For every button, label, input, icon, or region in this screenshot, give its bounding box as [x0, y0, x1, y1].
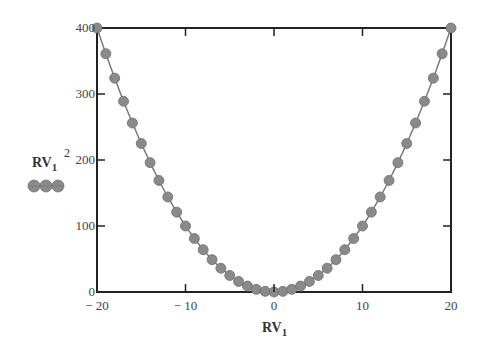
chart: − 20− 10010200100200300400 RV1 RV1 2	[0, 0, 481, 360]
y-tick-label: 200	[76, 152, 96, 167]
data-point-marker	[163, 192, 173, 202]
data-point-marker	[278, 286, 288, 296]
data-point-marker	[154, 175, 164, 185]
y-tick-label: 400	[76, 20, 96, 35]
data-point-marker	[331, 255, 341, 265]
x-tick-label: 20	[445, 298, 458, 313]
data-point-marker	[181, 221, 191, 231]
data-point-marker	[340, 245, 350, 255]
data-point-marker	[393, 158, 403, 168]
data-point-marker	[349, 234, 359, 244]
data-point-marker	[101, 49, 111, 59]
data-point-marker	[375, 192, 385, 202]
data-point-marker	[207, 255, 217, 265]
y-tick-label: 100	[76, 218, 96, 233]
data-point-marker	[216, 263, 226, 273]
data-point-marker	[411, 118, 421, 128]
data-point-marker	[234, 276, 244, 286]
data-point-marker	[402, 139, 412, 149]
x-tick-label: 0	[271, 298, 278, 313]
svg-text:RV1: RV1	[32, 155, 57, 173]
x-axis-title-main: RV	[262, 320, 282, 335]
data-point-marker	[437, 49, 447, 59]
data-point-marker	[225, 271, 235, 281]
y-axis-title-sub: 1	[52, 161, 58, 173]
y-tick-label: 300	[76, 86, 96, 101]
data-point-marker	[198, 245, 208, 255]
data-point-marker	[384, 175, 394, 185]
data-point-marker	[304, 276, 314, 286]
legend-marker-icon	[28, 180, 64, 192]
data-point-marker	[366, 207, 376, 217]
y-axis-title-sup: 2	[64, 146, 70, 160]
y-axis-title-main: RV	[32, 155, 52, 170]
x-tick-label: 10	[356, 298, 369, 313]
data-point-marker	[419, 96, 429, 106]
data-point-marker	[358, 221, 368, 231]
y-axis-title: RV1 2	[32, 146, 70, 173]
data-point-marker	[446, 23, 456, 33]
data-point-marker	[251, 284, 261, 294]
x-axis-title-sub: 1	[282, 326, 288, 338]
data-point-marker	[189, 234, 199, 244]
data-point-marker	[172, 207, 182, 217]
data-point-marker	[322, 263, 332, 273]
data-point-marker	[119, 96, 129, 106]
data-point-marker	[110, 73, 120, 83]
series-curve	[92, 23, 456, 297]
data-point-marker	[136, 139, 146, 149]
data-point-marker	[313, 271, 323, 281]
x-axis-title: RV1	[262, 320, 287, 338]
y-tick-label: 0	[89, 284, 96, 299]
data-point-marker	[428, 73, 438, 83]
data-point-marker	[296, 281, 306, 291]
x-tick-label: − 20	[85, 298, 109, 313]
x-tick-label: − 10	[174, 298, 198, 313]
data-point-marker	[145, 158, 155, 168]
svg-text:RV1: RV1	[262, 320, 287, 338]
data-point-marker	[127, 118, 137, 128]
